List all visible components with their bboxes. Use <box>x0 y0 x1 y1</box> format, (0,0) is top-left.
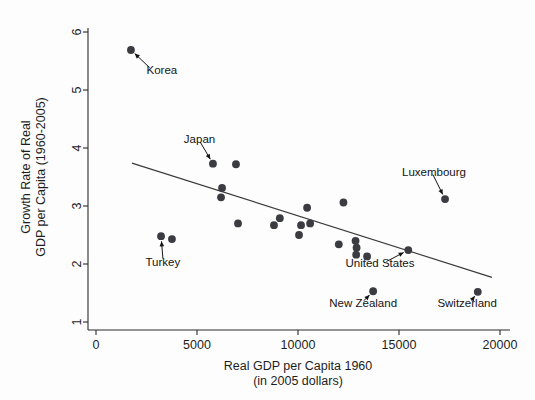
x-tick-label: 5000 <box>183 338 211 352</box>
data-point[interactable] <box>369 287 377 295</box>
x-tick-label: 0 <box>93 338 100 352</box>
scatter-plot: 05000100001500020000123456Real GDP per C… <box>0 0 535 400</box>
data-point[interactable] <box>353 244 361 252</box>
annotation-label: Japan <box>184 133 215 145</box>
data-point[interactable] <box>295 231 303 239</box>
annotation-label: Switzerland <box>437 297 496 309</box>
x-tick-label: 10000 <box>281 338 316 352</box>
y-tick-label: 2 <box>70 260 84 267</box>
y-tick-label: 5 <box>70 86 84 93</box>
data-point[interactable] <box>303 204 311 212</box>
y-tick-label: 3 <box>70 202 84 209</box>
y-axis-title-line1: Growth Rate of Real <box>19 120 33 233</box>
annotation-label: Korea <box>147 64 178 76</box>
data-point[interactable] <box>340 199 348 207</box>
data-point[interactable] <box>234 220 242 228</box>
data-point[interactable] <box>168 235 176 243</box>
x-tick-label: 15000 <box>382 338 417 352</box>
y-tick-label: 4 <box>70 144 84 151</box>
data-point[interactable] <box>232 160 240 168</box>
data-point[interactable] <box>217 193 225 201</box>
data-point[interactable] <box>276 214 284 222</box>
x-axis-title-line2: (in 2005 dollars) <box>253 374 343 388</box>
x-axis-title: Real GDP per Capita 1960 <box>224 359 373 373</box>
y-tick-label: 6 <box>70 28 84 35</box>
data-point[interactable] <box>352 237 360 245</box>
annotation-label: New Zealand <box>329 297 397 309</box>
data-point[interactable] <box>270 221 278 229</box>
annotation-arrowhead <box>160 241 165 246</box>
chart-page: 05000100001500020000123456Real GDP per C… <box>0 0 535 400</box>
data-point[interactable] <box>474 288 482 296</box>
y-tick-label: 1 <box>70 318 84 325</box>
data-point[interactable] <box>441 195 449 203</box>
data-point[interactable] <box>297 221 305 229</box>
data-point[interactable] <box>157 232 165 240</box>
data-point[interactable] <box>218 184 226 192</box>
data-point[interactable] <box>127 46 135 54</box>
data-point[interactable] <box>404 246 412 254</box>
data-point[interactable] <box>335 240 343 248</box>
data-point[interactable] <box>306 220 314 228</box>
y-axis-title-line2: GDP per Capita (1960-2005) <box>34 97 48 257</box>
x-tick-label: 20000 <box>483 338 518 352</box>
annotation-label: United States <box>345 257 414 269</box>
data-point[interactable] <box>209 160 217 168</box>
